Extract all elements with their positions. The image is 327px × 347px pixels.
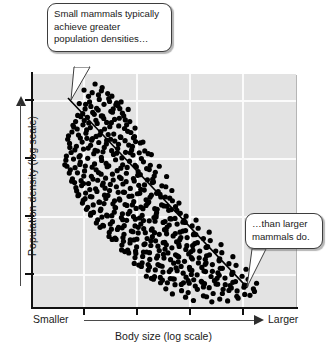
y-axis-arrow-icon [16, 96, 26, 106]
callout-large-mammals: …than larger mammals do. [245, 213, 323, 249]
y-axis-title: Population density (log scale) [26, 86, 38, 286]
x-axis-arrow-icon [254, 315, 264, 325]
y-axis-arrow-shaft [20, 104, 21, 286]
population-density-scatter-figure: Population density (log scale) Smaller L… [0, 0, 327, 347]
x-axis-arrow-shaft [84, 320, 256, 321]
callout-small-mammals-text: Small mammals typically achieve greater … [54, 8, 165, 46]
x-axis-title: Body size (log scale) [0, 330, 327, 342]
x-axis-high-label: Larger [268, 313, 298, 325]
callout-leader-layer [0, 0, 327, 347]
callout-tail-large-mammals [247, 249, 266, 287]
x-axis-low-label: Smaller [33, 313, 69, 325]
callout-large-mammals-text: …than larger mammals do. [252, 218, 316, 243]
callout-tail-small-mammals [71, 67, 90, 100]
callout-small-mammals: Small mammals typically achieve greater … [47, 3, 172, 52]
